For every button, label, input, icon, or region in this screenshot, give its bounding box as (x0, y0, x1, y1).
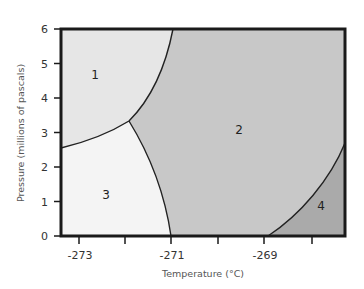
y-tick-label-4: 4 (41, 92, 48, 105)
region-3-label: 3 (102, 188, 110, 202)
x-tick-label-273: -273 (68, 249, 93, 262)
phase-diagram: 6 5 4 3 2 1 0 -273 -271 -269 Temperature… (0, 0, 364, 289)
x-tick-label-271: -271 (160, 249, 185, 262)
y-tick-label-2: 2 (41, 161, 48, 174)
y-tick-label-6: 6 (41, 23, 48, 36)
region-4-label: 4 (317, 199, 325, 213)
x-axis-title: Temperature (°C) (161, 268, 244, 279)
x-tick-label-269: -269 (253, 249, 278, 262)
y-tick-label-1: 1 (41, 196, 48, 209)
region-1-label: 1 (91, 68, 99, 82)
y-tick-label-5: 5 (41, 58, 48, 71)
y-tick-label-0: 0 (41, 230, 48, 243)
region-2-label: 2 (235, 123, 243, 137)
y-tick-label-3: 3 (41, 127, 48, 140)
y-axis-title: Pressure (millions of pascals) (15, 64, 26, 202)
